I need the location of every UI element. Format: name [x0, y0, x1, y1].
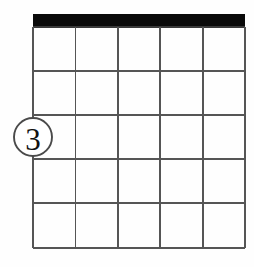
fretboard-svg: 3 — [0, 0, 254, 267]
fret-position-marker-label: 3 — [25, 122, 41, 157]
nut-bar — [33, 14, 245, 27]
fret-position-marker: 3 — [14, 118, 52, 157]
chord-diagram: 3 — [0, 0, 254, 267]
string-lines — [33, 27, 245, 248]
fret-lines — [33, 27, 245, 248]
